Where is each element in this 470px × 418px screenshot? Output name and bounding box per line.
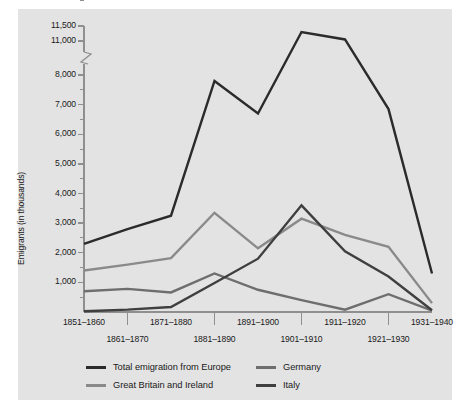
y-tick-label: 1,000 xyxy=(26,276,76,286)
series-line-0 xyxy=(84,32,432,273)
x-tick-label: 1931–1940 xyxy=(402,317,462,327)
y-axis-break-marker xyxy=(81,52,91,64)
axis-layer xyxy=(78,1,432,325)
series-layer xyxy=(84,32,432,311)
legend-label: Italy xyxy=(283,380,300,390)
legend-label: Great Britain and Ireland xyxy=(113,380,213,390)
x-tick-label: 1921–1930 xyxy=(359,334,419,344)
y-tick-label: 5,000 xyxy=(26,158,76,168)
legend-swatch-icon xyxy=(256,366,276,369)
y-tick-label: 3,000 xyxy=(26,217,76,227)
y-tick-label: 8,000 xyxy=(26,69,76,79)
x-tick-label: 1911–1920 xyxy=(315,317,375,327)
legend-entry: Italy xyxy=(256,380,300,390)
x-tick-label: 1881–1890 xyxy=(185,334,245,344)
legend-entry: Total emigration from Europe xyxy=(86,362,231,372)
x-tick-label: 1861–1870 xyxy=(98,334,158,344)
y-tick-label: 4,000 xyxy=(26,188,76,198)
legend-label: Germany xyxy=(283,362,321,372)
x-tick-label: 1851–1860 xyxy=(54,317,114,327)
series-line-3 xyxy=(84,205,432,311)
legend-swatch-icon xyxy=(86,366,106,369)
x-tick-label: 1901–1910 xyxy=(272,334,332,344)
legend-entry: Great Britain and Ireland xyxy=(86,380,213,390)
legend-entry: Germany xyxy=(256,362,321,372)
y-tick-label: 6,000 xyxy=(26,128,76,138)
y-tick-label: 11,500 xyxy=(26,20,76,30)
y-tick-label: 11,000 xyxy=(26,35,76,45)
y-tick-label: 2,000 xyxy=(26,247,76,257)
emigration-line-chart-figure: 11,50011,0008,0007,0006,0005,0004,0003,0… xyxy=(0,0,470,418)
x-tick-label: 1871–1880 xyxy=(141,317,201,327)
chart-plot-svg xyxy=(0,0,470,418)
y-axis-title: Emigrants (in thousands) xyxy=(16,172,26,265)
x-tick-label: 1891–1900 xyxy=(228,317,288,327)
series-line-2 xyxy=(84,273,432,310)
legend-swatch-icon xyxy=(86,384,106,387)
legend-label: Total emigration from Europe xyxy=(113,362,231,372)
legend-swatch-icon xyxy=(256,384,276,387)
y-tick-label: 7,000 xyxy=(26,99,76,109)
